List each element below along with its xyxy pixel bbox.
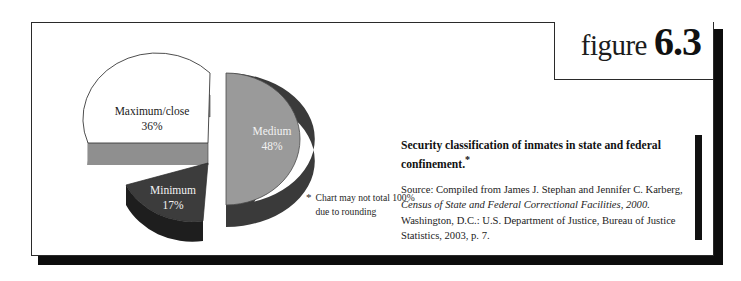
caption-source: Source: Compiled from James J. Stephan a… <box>401 182 689 244</box>
figure-frame: figure 6.3 Medium <box>31 22 714 256</box>
figure-number-label: 6.3 <box>654 22 701 62</box>
caption-title-text: Security classification of inmates in st… <box>401 139 661 171</box>
pie-slice-maximum-value: 36% <box>141 120 163 132</box>
figure-container: figure 6.3 Medium <box>0 0 741 281</box>
vertical-rule <box>695 135 702 240</box>
pie-slice-minimum: Minimum 17% <box>126 163 208 242</box>
pie-slice-medium: Medium 48% <box>226 73 315 227</box>
pie-slice-minimum-label: Minimum <box>150 184 196 196</box>
caption-title-asterisk: * <box>465 154 470 165</box>
source-prefix: Source: Compiled from James J. Stephan a… <box>401 184 683 195</box>
caption-block: Security classification of inmates in st… <box>401 138 689 244</box>
pie-chart-svg: Medium 48% Maximum/close <box>40 37 400 252</box>
pie-slice-medium-value: 48% <box>261 140 283 152</box>
source-suffix: Washington, D.C.: U.S. Department of Jus… <box>401 215 676 242</box>
pie-slice-medium-label: Medium <box>253 125 292 137</box>
pie-chart: Medium 48% Maximum/close <box>40 37 400 252</box>
pie-slice-minimum-value: 17% <box>162 199 184 211</box>
pie-slice-maximum-close: Maximum/close 36% <box>83 53 210 165</box>
source-italic-title: Census of State and Federal Correctional… <box>401 199 650 210</box>
pie-slice-maximum-label: Maximum/close <box>115 105 190 117</box>
pie-slice-medium-name: Medium <box>253 125 292 137</box>
figure-number-banner: figure 6.3 <box>554 22 713 80</box>
caption-title: Security classification of inmates in st… <box>401 138 689 173</box>
figure-word-label: figure <box>581 31 647 60</box>
footnote-asterisk: * <box>306 191 312 218</box>
